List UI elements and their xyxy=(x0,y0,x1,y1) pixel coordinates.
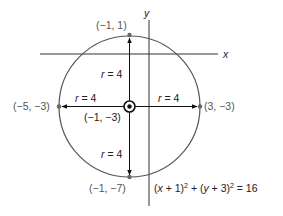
label-bottom-point: (−1, −7) xyxy=(89,182,126,194)
x-axis-label: x xyxy=(222,48,229,60)
label-left-point: (−5, −3) xyxy=(13,100,50,112)
radius-label-down: r = 4 xyxy=(101,148,122,160)
y-axis-label: y xyxy=(143,7,150,19)
radius-label-left: r = 4 xyxy=(75,92,96,104)
label-top-point: (−1, 1) xyxy=(96,19,127,31)
point-top xyxy=(127,33,131,37)
label-right-point: (3, −3) xyxy=(204,100,235,112)
radius-label-right: r = 4 xyxy=(158,92,179,104)
point-left xyxy=(57,104,61,108)
center-marker-dot xyxy=(127,104,131,108)
radius-label-up: r = 4 xyxy=(101,68,122,80)
point-bottom xyxy=(127,175,131,179)
label-center: (−1, −3) xyxy=(84,111,121,123)
point-right xyxy=(198,104,202,108)
circle-equation: (x + 1)2 + (y + 3)2 = 16 xyxy=(154,182,258,194)
circle-diagram: x y (−1, 1) (−1, −7) (−5, −3) (3, −3) (−… xyxy=(0,0,283,216)
